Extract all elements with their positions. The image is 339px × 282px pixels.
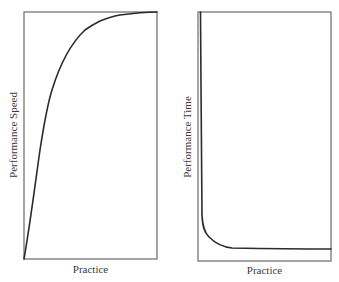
plots-canvas bbox=[0, 0, 339, 282]
right-y-axis-label: Performance Time bbox=[181, 92, 193, 182]
left-y-axis-label: Performance Speed bbox=[7, 90, 19, 180]
speed-curve bbox=[24, 12, 157, 259]
time-curve bbox=[201, 12, 332, 249]
right-x-axis-label: Practice bbox=[234, 264, 295, 276]
left-plot-frame bbox=[24, 12, 157, 259]
left-panel bbox=[24, 12, 157, 259]
right-plot-frame bbox=[198, 12, 331, 261]
left-x-axis-label: Practice bbox=[60, 263, 121, 275]
right-panel bbox=[198, 12, 331, 261]
learning-curves-figure: Performance Speed Practice Performance T… bbox=[0, 0, 339, 282]
